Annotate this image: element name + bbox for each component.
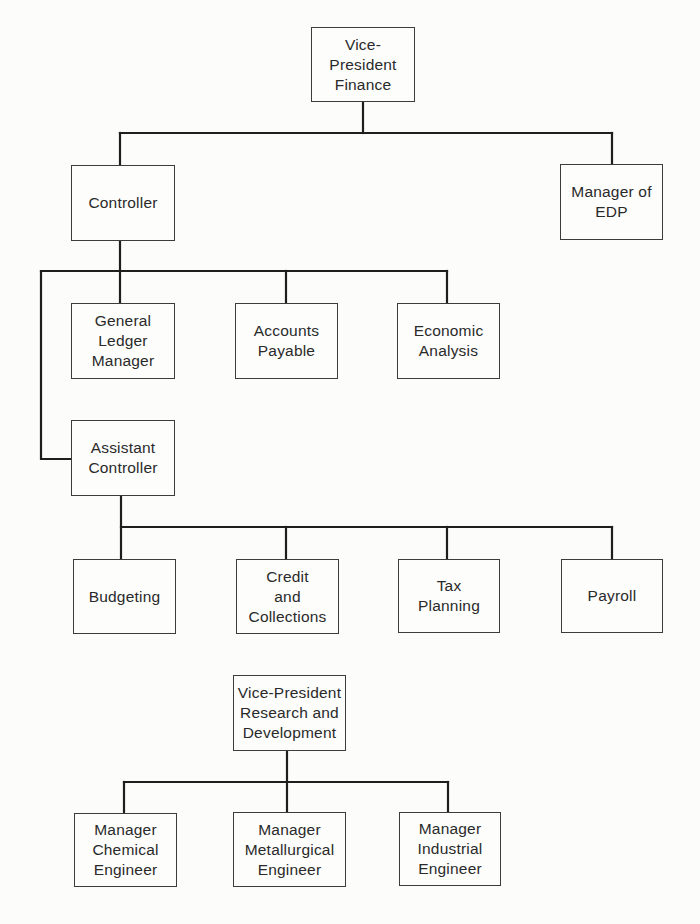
node-controller[interactable]: Controller	[71, 165, 175, 241]
node-economic-analysis[interactable]: Economic Analysis	[397, 303, 500, 379]
node-assistant-controller-label: Assistant Controller	[88, 438, 157, 478]
node-payroll-label: Payroll	[588, 586, 637, 606]
node-tax-planning[interactable]: Tax Planning	[398, 559, 500, 633]
node-general-ledger-manager[interactable]: General Ledger Manager	[71, 303, 175, 379]
node-manager-metallurgical-engineer[interactable]: Manager Metallurgical Engineer	[233, 812, 346, 887]
node-accounts-payable-label: Accounts Payable	[254, 321, 319, 361]
node-general-ledger-manager-label: General Ledger Manager	[92, 311, 155, 371]
node-budgeting[interactable]: Budgeting	[73, 559, 176, 634]
node-tax-planning-label: Tax Planning	[418, 576, 480, 616]
node-manager-chemical-engineer-label: Manager Chemical Engineer	[92, 820, 158, 880]
node-assistant-controller[interactable]: Assistant Controller	[71, 420, 175, 496]
node-manager-industrial-engineer-label: Manager Industrial Engineer	[418, 819, 483, 879]
node-vp-research-development[interactable]: Vice-President Research and Development	[233, 675, 346, 751]
node-manager-edp-label: Manager of EDP	[571, 182, 651, 222]
node-vp-finance[interactable]: Vice- President Finance	[311, 27, 415, 102]
connector-to-assistant-controller	[41, 271, 71, 459]
node-credit-and-collections-label: Credit and Collections	[248, 567, 326, 627]
node-payroll[interactable]: Payroll	[561, 559, 663, 633]
node-accounts-payable[interactable]: Accounts Payable	[235, 303, 338, 379]
node-credit-and-collections[interactable]: Credit and Collections	[236, 559, 339, 634]
node-budgeting-label: Budgeting	[89, 587, 161, 607]
node-economic-analysis-label: Economic Analysis	[414, 321, 484, 361]
node-controller-label: Controller	[88, 193, 157, 213]
node-manager-industrial-engineer[interactable]: Manager Industrial Engineer	[399, 812, 501, 886]
node-vp-research-development-label: Vice-President Research and Development	[238, 683, 341, 743]
node-vp-finance-label: Vice- President Finance	[329, 35, 396, 95]
node-manager-chemical-engineer[interactable]: Manager Chemical Engineer	[74, 813, 177, 887]
node-manager-edp[interactable]: Manager of EDP	[560, 164, 663, 240]
node-manager-metallurgical-engineer-label: Manager Metallurgical Engineer	[245, 820, 335, 880]
